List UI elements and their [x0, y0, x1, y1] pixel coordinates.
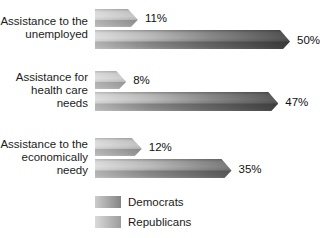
category-line-2: unemployed: [0, 28, 88, 41]
bar-row-republicans-health-care: 47%: [95, 92, 320, 111]
category-label-economically-needy: Assistance to the economically needy: [0, 138, 88, 177]
chart-group-economically-needy: Assistance to the economically needy 12%…: [0, 138, 320, 178]
category-line-1: Assistance for: [0, 71, 88, 84]
category-line-1: Assistance to the: [0, 138, 88, 151]
category-line-2: economically needy: [0, 151, 88, 177]
value-label-republicans-unemployed: 50%: [297, 34, 320, 46]
bar-republicans-health-care: [95, 92, 278, 111]
value-label-republicans-health-care: 47%: [285, 96, 308, 108]
legend-item-republicans: Republicans: [95, 216, 191, 228]
bar-row-democrats-economically-needy: 12%: [95, 138, 320, 156]
category-label-health-care: Assistance for health care needs: [0, 71, 88, 110]
bar-row-democrats-unemployed: 11%: [95, 9, 320, 27]
bar-democrats-economically-needy: [95, 138, 142, 156]
bar-row-republicans-unemployed: 50%: [95, 30, 320, 49]
bar-democrats-unemployed: [95, 9, 138, 27]
category-label-unemployed: Assistance to the unemployed: [0, 15, 88, 41]
bar-row-democrats-health-care: 8%: [95, 71, 320, 89]
category-line-2: health care needs: [0, 84, 88, 110]
bar-republicans-economically-needy: [95, 159, 232, 178]
legend-label-democrats: Democrats: [128, 196, 184, 208]
bar-pair-economically-needy: 12% 35%: [95, 138, 320, 178]
bar-pair-unemployed: 11% 50%: [95, 9, 320, 49]
bar-pair-health-care: 8% 47%: [95, 71, 320, 111]
legend-item-democrats: Democrats: [95, 196, 191, 208]
value-label-republicans-economically-needy: 35%: [239, 163, 262, 175]
category-line-1: Assistance to the: [0, 15, 88, 28]
republicans-swatch: [95, 216, 121, 228]
bar-democrats-health-care: [95, 71, 126, 89]
chart-group-unemployed: Assistance to the unemployed 11% 50%: [0, 9, 320, 49]
legend-label-republicans: Republicans: [128, 216, 191, 228]
value-label-democrats-economically-needy: 12%: [149, 141, 172, 153]
value-label-democrats-unemployed: 11%: [145, 12, 167, 24]
bar-republicans-unemployed: [95, 30, 290, 49]
chart-group-health-care: Assistance for health care needs 8% 47%: [0, 71, 320, 111]
value-label-democrats-health-care: 8%: [133, 74, 150, 86]
grouped-bar-chart: Assistance to the unemployed 11% 50% Ass…: [0, 0, 320, 238]
democrats-swatch: [95, 196, 121, 208]
bar-row-republicans-economically-needy: 35%: [95, 159, 320, 178]
legend: Democrats Republicans: [95, 196, 191, 236]
